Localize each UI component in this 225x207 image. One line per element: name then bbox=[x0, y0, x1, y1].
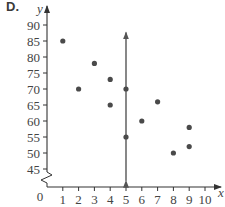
y-tick-label: 90 bbox=[27, 18, 40, 33]
x-tick-label: 3 bbox=[91, 192, 98, 207]
data-point bbox=[123, 86, 128, 91]
y-tick-label: 45 bbox=[27, 162, 40, 177]
x-tick-label: 8 bbox=[170, 192, 177, 207]
data-point bbox=[187, 125, 192, 130]
y-axis-label: y bbox=[35, 1, 43, 16]
scatter-plot: 45505560657075808590y 123456789100x bbox=[0, 0, 225, 207]
x-tick-label: 2 bbox=[75, 192, 82, 207]
x-tick-label: 6 bbox=[139, 192, 146, 207]
axis-break-icon bbox=[41, 172, 52, 187]
origin-label: 0 bbox=[37, 189, 44, 204]
y-tick-label: 85 bbox=[27, 34, 40, 49]
data-point bbox=[171, 150, 176, 155]
x-tick-label: 5 bbox=[123, 192, 130, 207]
y-tick-label: 55 bbox=[27, 130, 40, 145]
x-tick-label: 7 bbox=[154, 192, 161, 207]
x-axis-label: x bbox=[217, 185, 224, 200]
x-tick-label: 4 bbox=[107, 192, 114, 207]
data-point bbox=[60, 38, 65, 43]
data-point bbox=[155, 99, 160, 104]
data-point bbox=[108, 102, 113, 107]
y-axis: 45505560657075808590y bbox=[27, 1, 52, 187]
y-tick-label: 75 bbox=[27, 66, 40, 81]
data-point bbox=[92, 61, 97, 66]
x-tick-label: 1 bbox=[60, 192, 67, 207]
x-tick-label: 9 bbox=[186, 192, 193, 207]
x-axis: 123456789100x bbox=[37, 185, 224, 207]
data-point bbox=[108, 77, 113, 82]
y-tick-label: 70 bbox=[27, 82, 40, 97]
data-point bbox=[123, 134, 128, 139]
x-tick-label: 10 bbox=[199, 192, 212, 207]
y-tick-label: 80 bbox=[27, 50, 40, 65]
y-tick-label: 60 bbox=[27, 114, 40, 129]
data-point bbox=[76, 86, 81, 91]
y-tick-label: 65 bbox=[27, 98, 40, 113]
data-point bbox=[187, 144, 192, 149]
y-tick-label: 50 bbox=[27, 146, 40, 161]
data-point bbox=[139, 118, 144, 123]
